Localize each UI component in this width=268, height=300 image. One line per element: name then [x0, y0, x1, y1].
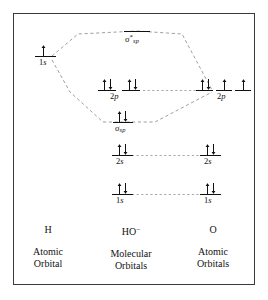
- line-sigmastar-to-o2p: [137, 31, 212, 90]
- electron-arrows: [106, 144, 142, 155]
- arrow-down-icon: [123, 111, 128, 122]
- sp-subscript: sp: [133, 37, 139, 44]
- arrow-up-icon: [117, 144, 122, 155]
- arrow-down-icon: [211, 144, 216, 155]
- level-label-1s: 1s: [39, 58, 47, 67]
- arrow-down-icon: [123, 183, 128, 194]
- column-type-line1-h: Atomic: [18, 246, 78, 259]
- level-bar: [196, 90, 213, 91]
- species-label-h: H: [18, 224, 78, 237]
- column-type-line1-o: Atomic: [182, 246, 244, 259]
- species-formula: HO: [122, 226, 136, 237]
- level-label-2p: 2p: [217, 92, 226, 101]
- electron-arrows: [106, 111, 142, 122]
- orbital-letter: p: [221, 91, 225, 101]
- caption-column-o: O Atomic Orbitals: [182, 224, 244, 271]
- electron-arrows: [194, 183, 230, 194]
- arrow-up-icon: [205, 183, 210, 194]
- line-sigma-to-o2p: [103, 92, 212, 122]
- sp-subscript: sp: [120, 126, 126, 133]
- level-label-1s: 1s: [116, 196, 124, 205]
- level-label-sigma: σsp: [115, 124, 125, 134]
- column-type-line2-h: Orbital: [18, 258, 78, 271]
- arrow-up-icon: [127, 79, 132, 90]
- column-type-line2-ho: Orbitals: [94, 260, 168, 273]
- diagram-stage: σ*sp 1s: [0, 0, 268, 300]
- arrow-up-icon: [222, 79, 227, 90]
- electron-arrows: [196, 79, 254, 90]
- charge-superscript: −: [136, 225, 140, 234]
- arrow-down-icon: [123, 144, 128, 155]
- electron-arrows: [30, 45, 60, 56]
- level-bar: [235, 90, 251, 91]
- arrow-up-icon: [117, 111, 122, 122]
- line-h1s-to-sigma: [52, 60, 103, 122]
- arrow-down-icon: [108, 79, 113, 90]
- electron-arrows: [194, 144, 230, 155]
- electron-arrows: [106, 183, 142, 194]
- species-label-o: O: [182, 224, 244, 237]
- level-bar: [124, 31, 150, 32]
- arrow-down-icon: [133, 79, 138, 90]
- level-label-2s: 2s: [116, 157, 124, 166]
- arrow-down-icon: [211, 183, 216, 194]
- arrow-up-icon: [117, 183, 122, 194]
- level-bar: [122, 90, 140, 91]
- arrow-up-icon: [241, 79, 246, 90]
- orbital-letter: s: [120, 156, 123, 166]
- orbital-letter: s: [208, 195, 211, 205]
- level-label-2s: 2s: [204, 157, 212, 166]
- column-type-line2-o: Orbitals: [182, 258, 244, 271]
- orbital-letter: s: [43, 57, 46, 67]
- level-label-sigma-star: σ*sp: [125, 33, 139, 45]
- orbital-letter: p: [114, 91, 118, 101]
- level-label-2p: 2p: [110, 92, 119, 101]
- caption-column-ho: HO− Molecular Orbitals: [94, 224, 168, 273]
- caption-column-h: H Atomic Orbital: [18, 224, 78, 271]
- orbital-letter: s: [120, 195, 123, 205]
- level-label-1s: 1s: [204, 196, 212, 205]
- arrow-down-icon: [206, 79, 211, 90]
- electron-arrows: [96, 79, 148, 90]
- mo-diagram-figure: σ*sp 1s: [0, 0, 268, 300]
- arrow-up-icon: [41, 45, 46, 56]
- arrow-up-icon: [102, 79, 107, 90]
- species-label-ho: HO−: [94, 224, 168, 239]
- arrow-up-icon: [205, 144, 210, 155]
- orbital-letter: s: [208, 156, 211, 166]
- column-type-line1-ho: Molecular: [94, 248, 168, 261]
- arrow-up-icon: [200, 79, 205, 90]
